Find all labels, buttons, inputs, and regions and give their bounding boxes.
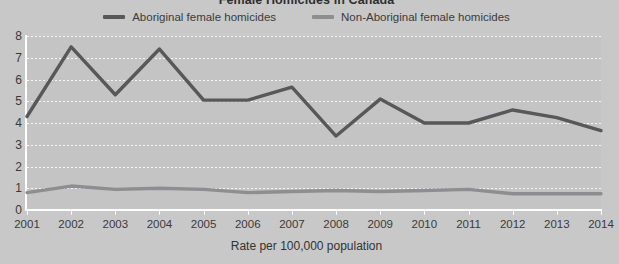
legend-item-non-aboriginal: Non-Aboriginal female homicides — [312, 11, 510, 23]
series-line-aboriginal — [27, 47, 601, 136]
x-tickmark-2010 — [424, 210, 425, 215]
plot-area — [27, 36, 601, 210]
x-tickmark-2014 — [601, 210, 602, 215]
x-tick-label-2012: 2012 — [491, 216, 535, 232]
x-axis-title: Rate per 100,000 population — [0, 239, 613, 253]
x-tick-label-2001: 2001 — [5, 216, 49, 232]
y-tick-label-2: 2 — [0, 161, 22, 173]
x-tick-label-2009: 2009 — [358, 216, 402, 232]
x-tickmark-2009 — [380, 210, 381, 215]
x-tick-label-2004: 2004 — [137, 216, 181, 232]
chart-title: Female Homicides in Canada — [0, 0, 613, 7]
y-tick-label-6: 6 — [0, 74, 22, 86]
x-tickmark-2001 — [27, 210, 28, 215]
y-tick-label-7: 7 — [0, 52, 22, 64]
x-tickmark-2004 — [159, 210, 160, 215]
y-tick-label-3: 3 — [0, 139, 22, 151]
x-tick-label-2011: 2011 — [447, 216, 491, 232]
x-tick-label-2010: 2010 — [402, 216, 446, 232]
x-tick-label-2013: 2013 — [535, 216, 579, 232]
series-lines — [27, 36, 601, 210]
x-tick-label-2006: 2006 — [226, 216, 270, 232]
x-tickmark-2003 — [115, 210, 116, 215]
chart-legend: Aboriginal female homicides Non-Aborigin… — [0, 9, 613, 25]
x-tick-label-2005: 2005 — [182, 216, 226, 232]
x-tick-label-2008: 2008 — [314, 216, 358, 232]
x-tickmark-2013 — [557, 210, 558, 215]
y-tick-label-4: 4 — [0, 117, 22, 129]
x-tick-label-2002: 2002 — [49, 216, 93, 232]
x-tickmark-2012 — [513, 210, 514, 215]
y-tick-label-5: 5 — [0, 95, 22, 107]
y-tick-label-8: 8 — [0, 30, 22, 42]
x-tickmark-2005 — [204, 210, 205, 215]
x-tickmark-2002 — [71, 210, 72, 215]
x-axis-tick-labels: 2001200220032004200520062007200820092010… — [27, 216, 601, 234]
x-tick-label-2007: 2007 — [270, 216, 314, 232]
y-axis-tick-labels: 012345678 — [0, 36, 22, 210]
legend-swatch-icon-non-aboriginal — [312, 15, 334, 19]
x-tickmark-2006 — [248, 210, 249, 215]
legend-item-aboriginal: Aboriginal female homicides — [103, 11, 276, 23]
x-tickmark-2011 — [469, 210, 470, 215]
legend-swatch-icon-aboriginal — [103, 15, 125, 19]
legend-label-non-aboriginal: Non-Aboriginal female homicides — [341, 11, 510, 23]
series-line-non-aboriginal — [27, 186, 601, 194]
y-tick-label-1: 1 — [0, 182, 22, 194]
x-tickmark-2007 — [292, 210, 293, 215]
x-tick-label-2003: 2003 — [93, 216, 137, 232]
y-tick-label-0: 0 — [0, 204, 22, 216]
x-tickmark-2008 — [336, 210, 337, 215]
legend-label-aboriginal: Aboriginal female homicides — [132, 11, 276, 23]
x-tick-label-2014: 2014 — [579, 216, 619, 232]
